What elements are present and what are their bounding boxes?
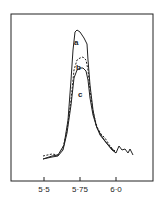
chart: a b c 5·5 5·75 6·0 [0,0,160,201]
label-b: b [76,63,81,72]
tick-label-5-5: 5·5 [38,185,50,194]
tick-label-6-0: 6·0 [110,185,122,194]
label-a: a [74,38,79,47]
label-c: c [78,90,83,99]
tick-label-5-75: 5·75 [72,185,89,194]
curve-c [43,68,133,159]
